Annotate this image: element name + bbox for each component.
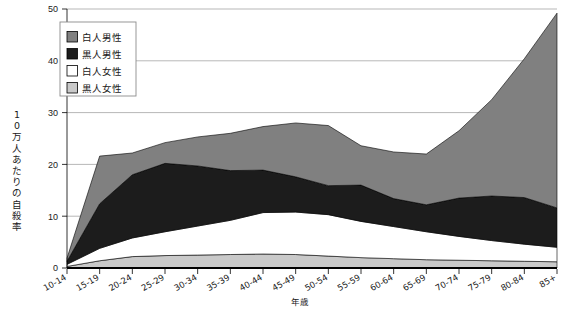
x-tick-label-5: 35-39	[205, 272, 231, 293]
legend-swatch-0	[67, 32, 78, 43]
y-tick-label-20: 20	[48, 160, 58, 170]
y-axis-title-char: 0	[14, 120, 20, 131]
x-tick-label-0: 10-14	[42, 272, 68, 293]
x-tick-label-2: 20-24	[107, 272, 133, 293]
legend-label-0: 白人男性	[82, 32, 122, 43]
y-axis-title-char: 1	[14, 109, 20, 120]
y-axis-title-char: の	[12, 187, 22, 198]
x-tick-label-8: 50-54	[303, 272, 329, 293]
x-tick-label-12: 70-74	[434, 272, 460, 293]
y-axis-title: 10万人あたりの自殺率	[12, 109, 22, 232]
x-tick-label-10: 60-64	[368, 272, 394, 293]
y-axis-title-char: 自	[12, 199, 22, 210]
y-axis-title-char: り	[12, 176, 22, 187]
legend-swatch-3	[67, 83, 78, 94]
legend-swatch-2	[67, 66, 78, 77]
y-axis-title-char: 率	[12, 221, 22, 232]
legend-swatch-1	[67, 49, 78, 60]
y-tick-label-50: 50	[48, 4, 58, 14]
y-axis-title-char: あ	[12, 154, 22, 165]
x-tick-label-11: 65-69	[401, 272, 427, 293]
x-axis-title: 年歳	[291, 297, 309, 307]
legend-label-2: 白人女性	[82, 66, 122, 77]
x-tick-label-9: 55-59	[336, 272, 362, 293]
y-axis-title-char: 殺	[12, 210, 22, 221]
stacked-area-chart: 0102030405010-1415-1920-2425-2930-3435-3…	[0, 0, 568, 321]
x-tick-label-7: 45-49	[270, 272, 296, 293]
x-tick-label-14: 80-84	[499, 272, 525, 293]
y-tick-label-10: 10	[48, 212, 58, 222]
y-axis-title-char: 万	[12, 131, 22, 142]
x-tick-label-4: 30-34	[172, 272, 198, 293]
x-tick-label-13: 75-79	[466, 272, 492, 293]
y-tick-label-30: 30	[48, 108, 58, 118]
x-tick-label-6: 40-44	[238, 272, 264, 293]
y-axis-title-char: た	[12, 165, 22, 176]
y-axis-title-char: 人	[12, 143, 22, 154]
y-tick-label-0: 0	[53, 263, 58, 273]
x-tick-label-3: 25-29	[140, 272, 166, 293]
legend-label-3: 黒人女性	[82, 83, 122, 94]
chart-figure: 0102030405010-1415-1920-2425-2930-3435-3…	[0, 0, 568, 321]
x-tick-label-15: 85+	[537, 272, 558, 290]
legend-label-1: 黒人男性	[82, 49, 122, 60]
y-tick-label-40: 40	[48, 56, 58, 66]
x-tick-label-1: 15-19	[74, 272, 100, 293]
